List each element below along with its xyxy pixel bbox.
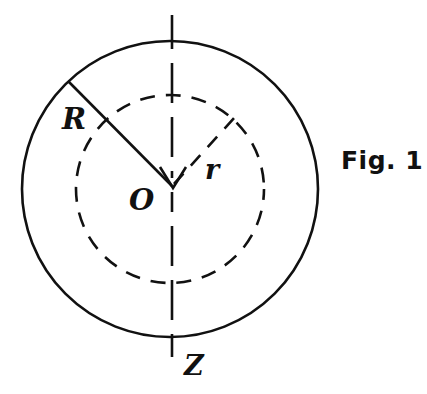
figure-drawing	[0, 0, 427, 394]
outer-circle-icon	[22, 41, 318, 337]
label-axis: Z	[184, 352, 204, 379]
figure-container: R r O Z Fig. 1	[0, 0, 427, 394]
inner-dashed-circle-icon	[76, 95, 264, 283]
label-outer-radius: R	[62, 105, 86, 134]
label-center: O	[129, 186, 154, 215]
figure-caption: Fig. 1	[341, 148, 423, 173]
label-inner-radius: r	[205, 156, 219, 183]
